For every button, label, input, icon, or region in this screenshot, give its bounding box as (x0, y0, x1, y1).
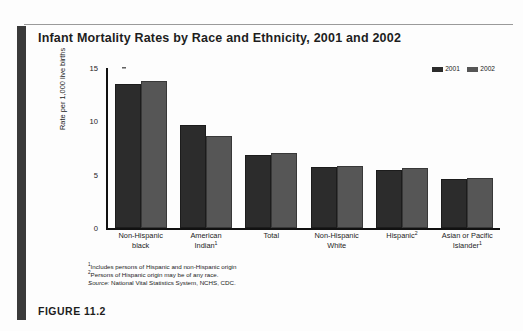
footnote-marker: 2 (415, 230, 418, 236)
top-divider-rule (24, 24, 513, 25)
x-axis-label-line: Indian1 (173, 241, 238, 251)
source-keyword: Source: (88, 279, 109, 286)
bar-2002 (271, 153, 297, 228)
bar-group (173, 68, 238, 228)
figure-caption: FIGURE 11.2 (38, 305, 106, 317)
bar-group (369, 68, 434, 228)
x-axis-category-labels: Non-HispanicblackAmericanIndian1TotalNon… (108, 231, 500, 250)
footnote-marker: 1 (215, 239, 218, 245)
bar-series-container (108, 68, 500, 228)
source-text: National Vital Statistics System, NCHS, … (109, 279, 235, 286)
x-axis-label-line: Total (239, 231, 304, 241)
footnote-text: Includes persons of Hispanic and non-His… (91, 263, 237, 270)
x-axis-label-line: black (108, 241, 173, 251)
y-axis-ticks: 051015 (76, 68, 102, 229)
y-tick-label: 0 (94, 224, 98, 233)
source-line: Source: National Vital Statistics System… (88, 279, 236, 287)
bar-group (435, 68, 500, 228)
bar-2001 (441, 179, 467, 228)
bar-2002 (337, 166, 363, 228)
y-axis-title: Rate per 1,000 live births (58, 48, 67, 130)
x-axis-label-line: Non-Hispanic (304, 231, 369, 241)
footnote-marker: 1 (479, 239, 482, 245)
bar-2001 (115, 84, 141, 228)
x-axis-label: AmericanIndian1 (173, 231, 238, 250)
bar-group (108, 68, 173, 228)
footnote-line: 1Includes persons of Hispanic and non-Hi… (88, 263, 236, 271)
x-axis-label-line: American (173, 231, 238, 241)
bar-group (239, 68, 304, 228)
footnote-line: 2Persons of Hispanic origin may be of an… (88, 271, 236, 279)
y-tick-label: 10 (90, 117, 98, 126)
bar-2001 (311, 167, 337, 228)
x-axis-label: Hispanic2 (369, 231, 434, 250)
x-axis-label: Asian or PacificIslander1 (435, 231, 500, 250)
bar-2002 (467, 178, 493, 228)
left-edge-accent-bar (17, 26, 26, 320)
x-axis-label-line: Hispanic2 (369, 231, 434, 241)
bar-2002 (206, 136, 232, 228)
bar-2002 (141, 81, 167, 228)
x-axis-label-line: Non-Hispanic (108, 231, 173, 241)
x-axis-label: Non-HispanicWhite (304, 231, 369, 250)
bar-2001 (376, 170, 402, 228)
x-axis-label-line: Islander1 (435, 241, 500, 251)
bar-2002 (402, 168, 428, 228)
y-tick-label: 15 (90, 64, 98, 73)
x-axis-label-line: White (304, 241, 369, 251)
footnote-text: Persons of Hispanic origin may be of any… (91, 271, 219, 278)
chart-title: Infant Mortality Rates by Race and Ethni… (38, 31, 401, 45)
bar-2001 (180, 125, 206, 228)
chart-footnotes: 1Includes persons of Hispanic and non-Hi… (88, 263, 236, 288)
y-tick-label: 5 (94, 170, 98, 179)
x-axis-label: Non-Hispanicblack (108, 231, 173, 250)
x-axis-label: Total (239, 231, 304, 250)
bar-2001 (245, 155, 271, 228)
bar-group (304, 68, 369, 228)
x-axis-label-line: Asian or Pacific (435, 231, 500, 241)
